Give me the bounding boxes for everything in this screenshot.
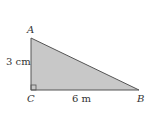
vertex-label-c: C — [27, 94, 35, 104]
vertex-label-b: B — [137, 94, 144, 104]
right-triangle — [31, 38, 139, 90]
vertex-label-a: A — [27, 25, 34, 35]
side-label-ac: 3 cm — [6, 57, 31, 67]
side-label-cb: 6 m — [72, 94, 91, 104]
